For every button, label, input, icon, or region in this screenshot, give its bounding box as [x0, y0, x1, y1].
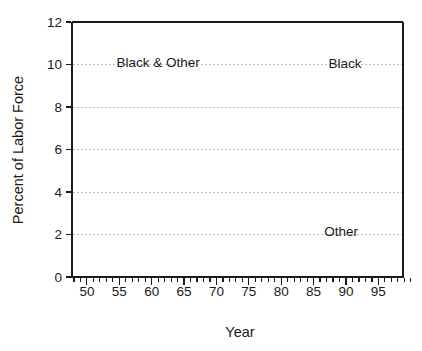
labor-force-chart: 50556065707580859095024681012 Black & Ot… — [0, 0, 422, 351]
x-axis-title: Year — [225, 324, 254, 340]
x-tick-label: 50 — [79, 284, 94, 299]
x-tick-label: 90 — [338, 284, 353, 299]
x-tick-label: 95 — [371, 284, 386, 299]
y-tick-label: 6 — [54, 142, 62, 157]
y-tick-label: 10 — [47, 57, 62, 72]
gridlines-group — [73, 65, 402, 235]
y-tick-label: 0 — [54, 270, 62, 285]
x-tick-label: 85 — [306, 284, 321, 299]
y-axis-title: Percent of Labor Force — [10, 76, 26, 224]
x-tick-label: 55 — [112, 284, 127, 299]
series-label-black: Black — [328, 56, 361, 71]
series-label-other: Other — [324, 224, 358, 239]
y-tick-label: 12 — [47, 15, 62, 30]
x-tick-label: 60 — [144, 284, 159, 299]
x-tick-label: 65 — [177, 284, 192, 299]
x-tick-label: 75 — [241, 284, 256, 299]
y-tick-label: 8 — [54, 100, 62, 115]
x-tick-label: 80 — [274, 284, 289, 299]
y-tick-label: 4 — [54, 185, 62, 200]
x-tick-label: 70 — [209, 284, 224, 299]
series-label-black-and-other: Black & Other — [117, 55, 201, 70]
y-tick-label: 2 — [54, 227, 62, 242]
plot-svg: 50556065707580859095024681012 Black & Ot… — [0, 0, 422, 351]
